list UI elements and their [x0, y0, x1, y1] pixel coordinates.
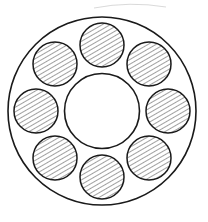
bore-circle-1 — [80, 23, 124, 67]
center-hole-outline — [65, 74, 140, 149]
bore-circle-5 — [80, 155, 124, 199]
stray-arc-artifact — [94, 4, 166, 8]
bore-circle-3 — [146, 89, 190, 133]
bore-circle-7 — [14, 89, 58, 133]
technical-drawing-canvas — [0, 0, 208, 222]
bore-circle-2 — [127, 42, 171, 86]
bore-circle-6 — [33, 136, 77, 180]
bore-circle-4 — [127, 136, 171, 180]
bore-circle-8 — [33, 42, 77, 86]
annular-plate-drawing — [0, 0, 208, 222]
